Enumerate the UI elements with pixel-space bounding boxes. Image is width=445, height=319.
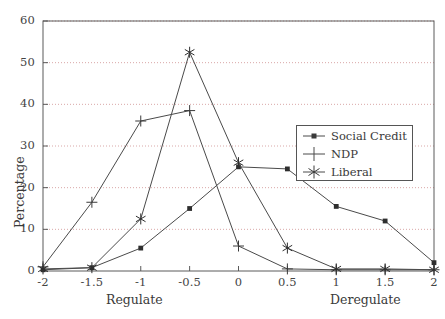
- series-line: [43, 167, 434, 270]
- legend-label-social-credit: Social Credit: [331, 129, 407, 143]
- legend-item-social-credit[interactable]: Social Credit: [297, 127, 412, 145]
- legend-marker-plus-icon: [297, 145, 331, 163]
- legend-item-liberal[interactable]: Liberal: [297, 163, 412, 181]
- y-axis-title: Percentage: [12, 156, 27, 228]
- y-tick-label: 30: [0, 138, 35, 152]
- x-tick-label: -1.5: [70, 275, 114, 289]
- legend-label-ndp: NDP: [331, 147, 358, 161]
- y-tick-label: 60: [0, 13, 35, 27]
- legend-item-ndp[interactable]: NDP: [297, 145, 412, 163]
- data-point-marker: [138, 246, 143, 251]
- data-point-marker: [187, 206, 192, 211]
- x-tick-label: 1.5: [363, 275, 407, 289]
- chart-container: 0102030405060 -2-1.5-1-0.500.511.52 Perc…: [0, 0, 445, 319]
- data-point-marker: [285, 167, 290, 172]
- x-axis-right-endpoint-label: Deregulate: [330, 292, 401, 307]
- x-tick-label: -2: [21, 275, 65, 289]
- x-tick-label: -1: [119, 275, 163, 289]
- legend[interactable]: Social Credit NDP Liberal: [296, 125, 413, 181]
- x-tick-label: -0.5: [168, 275, 212, 289]
- legend-marker-filled-square-icon: [297, 127, 331, 145]
- data-point-marker: [383, 219, 388, 224]
- y-tick-label: 40: [0, 96, 35, 110]
- x-axis-left-endpoint-label: Regulate: [106, 292, 163, 307]
- legend-label-liberal: Liberal: [331, 165, 373, 179]
- data-point-marker: [334, 204, 339, 209]
- x-tick-label: 2: [412, 275, 445, 289]
- x-tick-label: 0: [217, 275, 261, 289]
- x-tick-label: 0.5: [265, 275, 309, 289]
- y-tick-label: 50: [0, 55, 35, 69]
- legend-marker-asterisk-icon: [297, 163, 331, 181]
- x-tick-label: 1: [314, 275, 358, 289]
